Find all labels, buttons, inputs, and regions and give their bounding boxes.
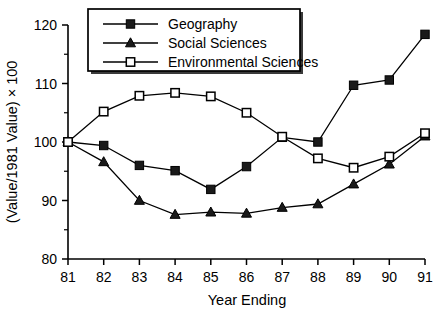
- y-tick-label: 90: [41, 193, 57, 209]
- legend-label: Environmental Sciences: [168, 54, 318, 70]
- series-line: [68, 136, 425, 214]
- data-point: [385, 152, 393, 160]
- data-point: [207, 185, 215, 193]
- x-tick-label: 82: [96, 269, 112, 285]
- data-point: [207, 92, 215, 100]
- data-point: [135, 92, 143, 100]
- data-point: [313, 199, 323, 208]
- x-axis-title: Year Ending: [208, 292, 286, 308]
- data-point: [135, 161, 143, 169]
- data-point: [314, 138, 322, 146]
- x-tick-label: 90: [382, 269, 398, 285]
- data-point: [171, 166, 179, 174]
- data-point: [242, 162, 250, 170]
- x-tick-label: 84: [167, 269, 183, 285]
- series-line: [68, 93, 425, 168]
- data-point: [421, 30, 429, 38]
- data-point: [242, 109, 250, 117]
- y-tick-label: 110: [35, 76, 58, 92]
- y-tick-label: 100: [34, 134, 58, 150]
- data-point: [385, 76, 393, 84]
- series-environmental-sciences: [64, 89, 429, 172]
- data-point: [349, 164, 357, 172]
- x-tick-label: 87: [274, 269, 290, 285]
- x-tick-label: 86: [239, 269, 255, 285]
- chart-legend: GeographySocial SciencesEnvironmental Sc…: [88, 9, 318, 74]
- y-axis-tick-labels: 8090100110120: [34, 17, 58, 267]
- legend-label: Geography: [168, 16, 237, 32]
- legend-label: Social Sciences: [168, 35, 267, 51]
- data-point: [64, 138, 72, 146]
- data-point: [206, 207, 216, 216]
- legend-marker-icon: [126, 20, 134, 28]
- y-tick-label: 120: [34, 17, 58, 33]
- data-point: [421, 129, 429, 137]
- data-point: [100, 107, 108, 115]
- series-social-sciences: [63, 131, 430, 218]
- chart-container: 8090100110120 8182838485868788899091 Yea…: [0, 0, 444, 320]
- data-point: [171, 89, 179, 97]
- x-tick-label: 81: [60, 269, 76, 285]
- data-point: [314, 154, 322, 162]
- y-axis-title: (Value/1981 Value) × 100: [4, 61, 20, 224]
- y-tick-label: 80: [41, 251, 57, 267]
- x-tick-label: 88: [310, 269, 326, 285]
- data-point: [349, 179, 359, 188]
- data-point: [100, 141, 108, 149]
- data-point: [349, 81, 357, 89]
- x-tick-label: 85: [203, 269, 219, 285]
- x-axis-tick-labels: 8182838485868788899091: [60, 269, 433, 285]
- legend-marker-icon: [126, 58, 134, 66]
- x-tick-label: 83: [132, 269, 148, 285]
- data-point: [278, 133, 286, 141]
- line-chart: 8090100110120 8182838485868788899091 Yea…: [0, 0, 444, 320]
- x-tick-label: 91: [417, 269, 433, 285]
- x-axis-ticks: [68, 259, 425, 265]
- data-point: [99, 157, 109, 166]
- x-tick-label: 89: [346, 269, 362, 285]
